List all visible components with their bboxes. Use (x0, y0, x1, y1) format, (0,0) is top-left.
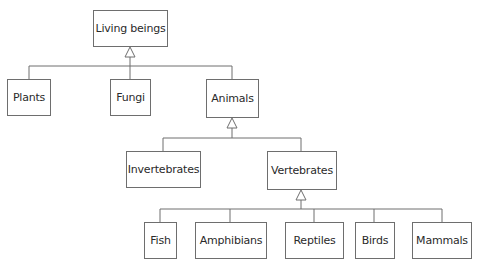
generalization-arrow-icon (125, 47, 135, 57)
node-fish: Fish (144, 222, 177, 259)
node-living-beings: Living beings (93, 10, 168, 47)
node-mammals: Mammals (412, 222, 472, 259)
node-animals: Animals (206, 79, 259, 118)
node-invertebrates: Invertebrates (126, 151, 201, 188)
node-reptiles: Reptiles (285, 222, 344, 259)
node-amphibians: Amphibians (195, 222, 267, 259)
generalization-arrow-icon (227, 118, 237, 128)
node-fungi: Fungi (110, 79, 151, 116)
generalization-arrow-icon (296, 190, 306, 200)
node-birds: Birds (355, 222, 395, 259)
node-vertebrates: Vertebrates (267, 151, 337, 190)
node-plants: Plants (7, 79, 51, 116)
